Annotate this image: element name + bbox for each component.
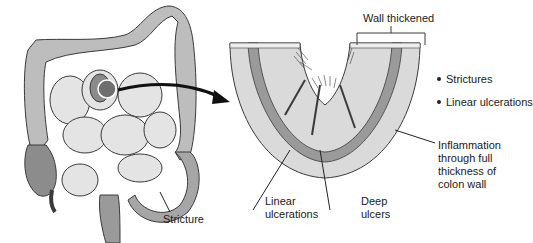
magnify-circle xyxy=(98,80,116,98)
wall-bracket xyxy=(357,26,425,45)
label-deep-ulcers: Deep ulcers xyxy=(361,195,390,221)
bullet-icon xyxy=(437,100,441,104)
colon-wall-cross-section xyxy=(230,43,420,178)
label-inflammation: Inflammation through full thickness of c… xyxy=(438,139,501,191)
label-wall-thickened: Wall thickened xyxy=(363,12,434,25)
leader-inflammation xyxy=(395,130,435,143)
bullet-linear-ulcerations: Linear ulcerations xyxy=(437,91,533,114)
arrow-head-icon xyxy=(212,90,230,104)
leader-stricture xyxy=(160,192,170,212)
bullet-strictures: Strictures xyxy=(437,68,533,91)
label-linear-ulcerations: Linear ulcerations xyxy=(265,195,318,221)
feature-bullet-list: Strictures Linear ulcerations xyxy=(437,68,533,114)
label-stricture: Stricture xyxy=(163,213,204,226)
bullet-icon xyxy=(437,77,441,81)
colon-illustration xyxy=(24,6,199,243)
